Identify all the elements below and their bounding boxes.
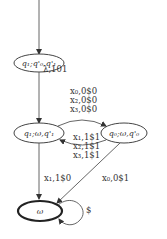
state-node-omega-final[interactable]: ω	[18, 201, 62, 221]
state-node-q0-omega[interactable]: q₀;ω,q'₀	[101, 123, 147, 143]
state-node-q1-omega[interactable]: q₁;ω,q'₁	[14, 123, 64, 143]
edge-label: $	[86, 205, 91, 215]
edge-label: x₀,0$1	[102, 173, 129, 183]
state-diagram: q₁;q'₀,q'₁ λ,101 q₁;ω,q'₁ q₀;ω,q'₀ x₀,0$…	[0, 0, 167, 239]
edge-label: x₃,0$0	[70, 104, 97, 114]
edge-label: λ,101	[43, 64, 67, 74]
state-label: q₀;ω,q'₀	[109, 129, 140, 138]
edge-label: x₃,1$1	[73, 150, 100, 160]
state-label: ω	[37, 207, 44, 216]
edge-label: x₁,1$0	[44, 173, 71, 183]
state-label: q₁;ω,q'₁	[24, 129, 55, 138]
edge-n2-n3	[58, 120, 106, 126]
